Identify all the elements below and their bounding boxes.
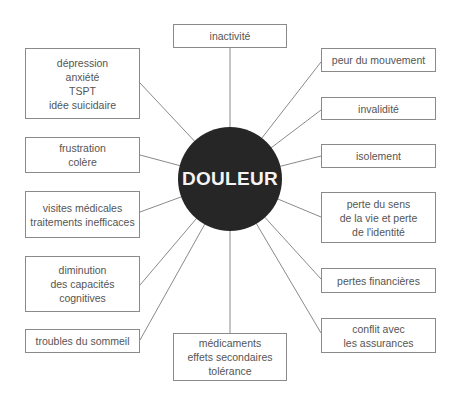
node-text: idée suicidaire bbox=[49, 98, 116, 112]
node-text: des capacités bbox=[50, 277, 114, 291]
node-perte-sens: perte du sens de la vie et perte de l'id… bbox=[321, 192, 436, 243]
node-text: médicaments bbox=[199, 336, 261, 350]
node-text: traitements inefficaces bbox=[30, 215, 134, 229]
node-text: conflit avec bbox=[352, 322, 405, 336]
node-text: diminution bbox=[59, 263, 107, 277]
node-invalidite: invalidité bbox=[321, 97, 436, 120]
node-pertes-financieres: pertes financières bbox=[321, 268, 436, 293]
node-text: les assurances bbox=[343, 336, 413, 350]
node-text: frustration bbox=[59, 141, 106, 155]
node-text: de la vie et perte bbox=[340, 211, 418, 225]
node-troubles: troubles du sommeil bbox=[25, 329, 140, 353]
node-medicaments: médicaments effets secondaires tolérance bbox=[173, 333, 287, 381]
node-text: visites médicales bbox=[43, 201, 122, 215]
node-text: invalidité bbox=[358, 102, 399, 116]
node-text: tolérance bbox=[208, 364, 251, 378]
node-frustration: frustration colère bbox=[25, 137, 140, 173]
node-text: cognitives bbox=[59, 291, 106, 305]
node-text: inactivité bbox=[210, 29, 251, 43]
node-visites: visites médicales traitements inefficace… bbox=[25, 191, 140, 238]
node-text: effets secondaires bbox=[187, 350, 272, 364]
node-text: colère bbox=[68, 155, 97, 169]
node-text: anxiété bbox=[66, 70, 100, 84]
node-peur: peur du mouvement bbox=[321, 48, 436, 72]
node-text: perte du sens bbox=[347, 197, 411, 211]
node-diminution: diminution des capacités cognitives bbox=[25, 256, 140, 312]
node-text: peur du mouvement bbox=[332, 53, 425, 67]
node-text: TSPT bbox=[69, 84, 96, 98]
node-isolement: isolement bbox=[321, 144, 436, 168]
center-label: DOULEUR bbox=[182, 168, 278, 190]
node-text: troubles du sommeil bbox=[36, 334, 130, 348]
node-text: de l'identité bbox=[352, 225, 405, 239]
node-inactivite: inactivité bbox=[173, 24, 287, 48]
node-text: isolement bbox=[356, 149, 401, 163]
node-text: pertes financières bbox=[337, 274, 420, 288]
node-depression: dépression anxiété TSPT idée suicidaire bbox=[25, 48, 140, 119]
center-node-douleur: DOULEUR bbox=[178, 127, 282, 231]
node-text: dépression bbox=[57, 56, 108, 70]
node-conflit: conflit avec les assurances bbox=[321, 318, 436, 353]
